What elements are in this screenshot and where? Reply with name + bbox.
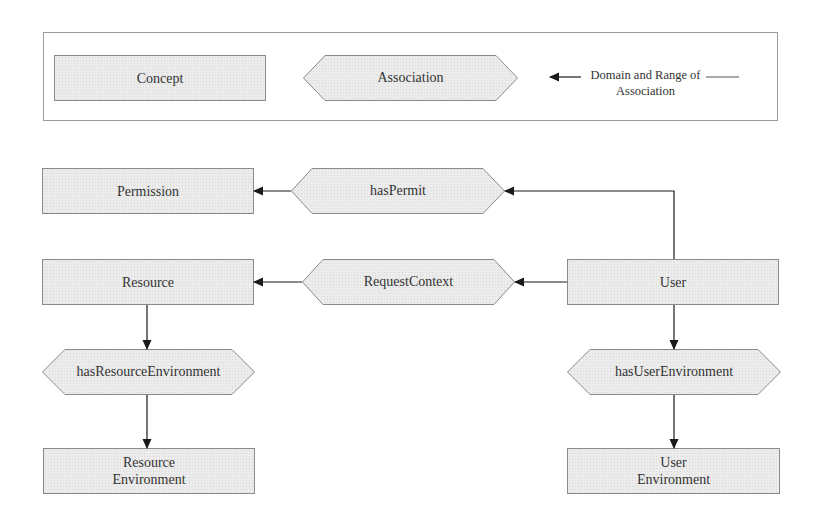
association-has-resource-environment-label: hasResourceEnvironment — [42, 349, 255, 395]
legend-arrow-label-line1: Domain and Range of — [578, 67, 713, 83]
concept-user-label: User — [660, 274, 686, 291]
association-request-context: RequestContext — [302, 259, 515, 305]
concept-resource: Resource — [42, 259, 254, 305]
legend-concept-box: Concept — [54, 55, 266, 101]
association-has-permit-label: hasPermit — [291, 168, 505, 214]
legend-association-label: Association — [303, 55, 518, 101]
concept-resource-environment-line2: Environment — [112, 471, 185, 488]
concept-permission-label: Permission — [117, 183, 179, 200]
concept-resource-environment-line1: Resource — [123, 454, 175, 471]
concept-user: User — [567, 259, 779, 305]
concept-user-environment: User Environment — [567, 448, 780, 494]
edge-user-to-has-permit — [505, 191, 674, 259]
concept-user-environment-line1: User — [660, 454, 686, 471]
concept-resource-environment: Resource Environment — [43, 448, 255, 494]
association-request-context-label: RequestContext — [302, 259, 515, 305]
concept-user-environment-line2: Environment — [637, 471, 710, 488]
association-has-user-environment: hasUserEnvironment — [567, 349, 781, 395]
association-has-user-environment-label: hasUserEnvironment — [567, 349, 781, 395]
concept-permission: Permission — [42, 168, 254, 214]
legend-association-hexagon: Association — [303, 55, 518, 101]
association-has-resource-environment: hasResourceEnvironment — [42, 349, 255, 395]
concept-resource-label: Resource — [122, 274, 174, 291]
association-has-permit: hasPermit — [291, 168, 505, 214]
legend-arrow-description: Domain and Range of Association — [578, 67, 713, 99]
legend-concept-label: Concept — [137, 70, 184, 87]
legend-arrow-label-line2: Association — [578, 83, 713, 99]
